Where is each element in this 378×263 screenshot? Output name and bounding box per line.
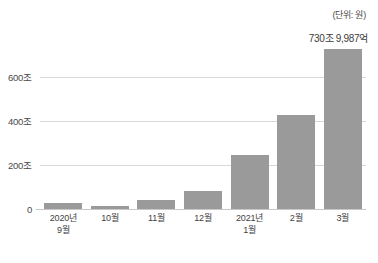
x-tick-label-line1: 2021년: [236, 213, 263, 223]
x-tick-label: 3월: [319, 212, 366, 224]
x-tick-label-line1: 3월: [336, 213, 349, 223]
x-tick-label-line1: 11월: [148, 213, 165, 223]
y-tick-label: 400조: [8, 114, 32, 128]
x-tick-label: 2월: [273, 212, 320, 224]
bar: [91, 206, 129, 209]
x-tick-label: 10월: [87, 212, 134, 224]
bar-chart: (단위: 원) 730조 9,987억 0200조400조600조 2020년9…: [0, 0, 378, 263]
x-tick-label-line1: 2020년: [50, 213, 77, 223]
x-tick-label: 2021년1월: [226, 212, 273, 236]
bars-group: [40, 40, 366, 209]
x-tick-label-line1: 2월: [290, 213, 303, 223]
bar: [44, 203, 82, 209]
x-tick-label-line2: 1월: [226, 224, 273, 236]
x-axis-labels: 2020년9월10월11월12월2021년1월2월3월: [40, 212, 366, 256]
axis-baseline: [36, 209, 366, 210]
bar: [184, 191, 222, 209]
plot-area: 0200조400조600조: [40, 40, 366, 209]
x-tick-label: 12월: [180, 212, 227, 224]
y-tick-label: 200조: [8, 158, 32, 172]
x-tick-label-line1: 10월: [101, 213, 118, 223]
x-tick-label-line1: 12월: [194, 213, 211, 223]
y-tick-label: 600조: [8, 70, 32, 84]
bar: [277, 115, 315, 209]
x-tick-label: 11월: [133, 212, 180, 224]
x-tick-label-line2: 9월: [40, 224, 87, 236]
y-tick-label: 0: [27, 204, 32, 215]
unit-label: (단위: 원): [332, 8, 366, 21]
bar: [137, 200, 175, 209]
x-tick-label: 2020년9월: [40, 212, 87, 236]
bar: [324, 49, 362, 209]
bar: [231, 155, 269, 209]
